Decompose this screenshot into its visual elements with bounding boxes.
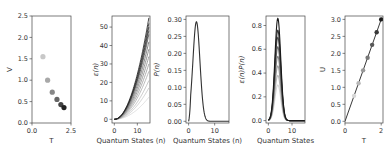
x-axis-label: Quantum States (n) bbox=[173, 137, 242, 145]
y-tick-label: 0.0 bbox=[252, 117, 262, 125]
y-tick-label: 50 bbox=[100, 23, 108, 31]
y-axis-label: U bbox=[319, 67, 327, 72]
subplot-5: 0.00.51.01.52.02.53.002TU bbox=[319, 16, 383, 145]
x-tick-label: 0 bbox=[266, 127, 270, 135]
y-tick-label: 0.8 bbox=[252, 22, 262, 30]
y-tick-label: 0.30 bbox=[168, 16, 182, 24]
y-tick-label: 1.0 bbox=[331, 84, 341, 92]
subplot-1: 0.00.51.01.52.02.50.02.5TV bbox=[6, 12, 76, 145]
y-tick-label: 0 bbox=[104, 116, 108, 124]
x-tick-label: 0.0 bbox=[27, 127, 37, 135]
y-tick-label: 20 bbox=[100, 79, 108, 87]
x-axis-label: T bbox=[48, 137, 54, 145]
y-tick-label: 2.5 bbox=[18, 12, 28, 20]
subplot-3: 0.000.050.100.150.200.250.30010Quantum S… bbox=[153, 16, 242, 145]
y-axis-label: ε(n)P(n) bbox=[238, 55, 246, 83]
data-point bbox=[374, 30, 378, 34]
figure: 0.00.51.01.52.02.50.02.5TV01020304050010… bbox=[0, 0, 392, 152]
data-point bbox=[45, 78, 50, 83]
y-tick-label: 0.2 bbox=[252, 93, 262, 101]
y-tick-label: 0.05 bbox=[168, 101, 182, 109]
y-tick-label: 30 bbox=[100, 60, 108, 68]
data-point bbox=[361, 68, 365, 72]
data-point bbox=[352, 94, 356, 98]
y-axis-label: P(n) bbox=[153, 62, 161, 76]
data-point bbox=[370, 43, 374, 47]
y-tick-label: 0.4 bbox=[252, 69, 262, 77]
y-tick-label: 40 bbox=[100, 42, 108, 50]
y-tick-label: 2.0 bbox=[331, 50, 341, 58]
probability-curve bbox=[189, 22, 229, 122]
y-tick-label: 2.5 bbox=[331, 33, 341, 41]
y-tick-label: 0.10 bbox=[168, 84, 182, 92]
x-tick-label: 0 bbox=[112, 127, 116, 135]
y-tick-label: 0.0 bbox=[18, 119, 28, 127]
y-tick-label: 0.0 bbox=[331, 118, 341, 126]
y-tick-label: 0.5 bbox=[18, 98, 28, 106]
plot-area bbox=[345, 17, 383, 121]
x-tick-label: 10 bbox=[133, 127, 141, 135]
y-axis-label: V bbox=[6, 67, 14, 72]
y-axis-label: ε(n) bbox=[92, 62, 100, 76]
y-tick-label: 0.25 bbox=[168, 33, 182, 41]
y-tick-label: 0.5 bbox=[331, 101, 341, 109]
x-tick-label: 0 bbox=[187, 127, 191, 135]
y-tick-label: 3.0 bbox=[331, 16, 341, 24]
x-tick-label: 0 bbox=[343, 127, 347, 135]
x-axis-label: Quantum States (n) bbox=[96, 137, 165, 145]
data-point bbox=[54, 97, 59, 102]
data-point bbox=[356, 81, 360, 85]
plot-area bbox=[40, 54, 66, 110]
y-tick-label: 1.0 bbox=[18, 76, 28, 84]
y-tick-label: 10 bbox=[100, 97, 108, 105]
x-tick-label: 2.5 bbox=[66, 127, 76, 135]
x-tick-label: 2 bbox=[379, 127, 383, 135]
plot-area bbox=[114, 18, 149, 119]
y-tick-label: 1.5 bbox=[331, 67, 341, 75]
y-tick-label: 2.0 bbox=[18, 34, 28, 42]
y-tick-label: 0.15 bbox=[168, 67, 182, 75]
x-tick-label: 10 bbox=[288, 127, 296, 135]
x-tick-label: 10 bbox=[211, 127, 219, 135]
y-tick-label: 0.00 bbox=[168, 118, 182, 126]
x-axis-label: T bbox=[361, 137, 367, 145]
data-point bbox=[50, 90, 55, 95]
data-point bbox=[365, 56, 369, 60]
data-point bbox=[61, 105, 66, 110]
x-axis-label: Quantum States bbox=[257, 137, 314, 145]
y-tick-label: 0.6 bbox=[252, 45, 262, 53]
y-tick-label: 0.20 bbox=[168, 50, 182, 58]
plot-area bbox=[268, 18, 305, 120]
subplot-2: 01020304050010Quantum States (n)ε(n) bbox=[92, 16, 166, 145]
y-tick-label: 1.5 bbox=[18, 55, 28, 63]
data-point bbox=[40, 54, 45, 59]
subplot-4: 0.00.20.40.60.8010Quantum Statesε(n)P(n) bbox=[238, 16, 314, 145]
plot-area bbox=[189, 22, 229, 122]
